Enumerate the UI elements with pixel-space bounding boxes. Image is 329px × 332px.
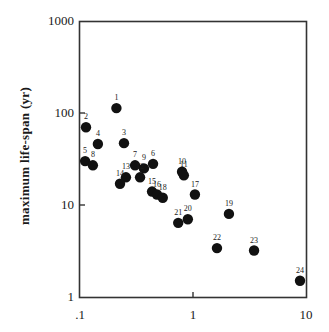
point-label: 3: [122, 128, 126, 137]
x-tick-label: .1: [75, 307, 85, 322]
point-label: 23: [250, 236, 258, 245]
x-axis-ticks: .1110: [75, 292, 312, 322]
y-axis-label: maximum life-span (yr): [17, 87, 32, 225]
data-points: 123456789101112131415161718192021222324: [80, 93, 305, 286]
data-point: 24: [295, 266, 305, 286]
point-marker: [81, 122, 91, 132]
point-label: 17: [191, 180, 199, 189]
point-label: 12: [136, 162, 144, 171]
point-marker: [158, 193, 168, 203]
x-tick-label: 10: [300, 307, 313, 322]
point-label: 22: [213, 233, 221, 242]
y-tick-label: 100: [55, 105, 75, 120]
point-marker: [173, 218, 183, 228]
point-label: 7: [133, 150, 137, 159]
point-marker: [88, 160, 98, 170]
point-marker: [224, 209, 234, 219]
point-label: 9: [142, 153, 146, 162]
point-label: 18: [159, 183, 167, 192]
data-point: 17: [190, 180, 200, 200]
point-label: 8: [91, 150, 95, 159]
point-label: 2: [84, 112, 88, 121]
point-label: 6: [151, 149, 155, 158]
point-label: 20: [184, 204, 192, 213]
point-marker: [212, 243, 222, 253]
data-point: 22: [212, 233, 222, 253]
data-point: 1: [111, 93, 121, 113]
data-point: 4: [93, 129, 103, 149]
data-point: 6: [148, 149, 158, 169]
point-marker: [295, 276, 305, 286]
point-label: 11: [180, 160, 188, 169]
x-tick-label: 1: [190, 307, 197, 322]
point-marker: [179, 170, 189, 180]
data-point: 20: [183, 204, 193, 224]
scatter-chart: 1101001000 .1110 maximum life-span (yr) …: [0, 0, 329, 332]
plot-frame: [80, 22, 307, 298]
point-label: 1: [114, 93, 118, 102]
y-tick-label: 1: [68, 289, 75, 304]
point-marker: [119, 138, 129, 148]
point-marker: [115, 179, 125, 189]
data-point: 2: [81, 112, 91, 132]
point-label: 19: [225, 199, 233, 208]
point-marker: [135, 172, 145, 182]
point-label: 5: [83, 146, 87, 155]
point-label: 21: [174, 208, 182, 217]
point-marker: [190, 189, 200, 199]
point-label: 14: [116, 169, 124, 178]
point-marker: [148, 159, 158, 169]
point-label: 4: [96, 129, 100, 138]
point-marker: [249, 245, 259, 255]
point-marker: [111, 103, 121, 113]
y-tick-label: 10: [61, 197, 74, 212]
data-point: 21: [173, 208, 183, 228]
point-label: 24: [296, 266, 304, 275]
point-marker: [183, 214, 193, 224]
data-point: 3: [119, 128, 129, 148]
data-point: 23: [249, 236, 259, 256]
data-point: 19: [224, 199, 234, 219]
y-tick-label: 1000: [48, 13, 74, 28]
point-marker: [93, 139, 103, 149]
